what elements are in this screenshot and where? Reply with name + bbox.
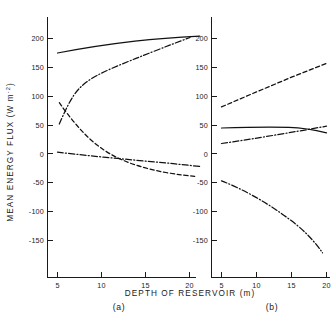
y-tick-label: 200 (31, 34, 44, 43)
y-tick-label: -50 (197, 178, 208, 187)
y-tick-label: 50 (36, 121, 44, 130)
panel-a-axis-lines (48, 17, 197, 278)
svg-text:MEAN ENERGY FLUX (W m-2): MEAN ENERGY FLUX (W m-2) (5, 82, 15, 222)
panel-b-x-ticks (222, 272, 327, 278)
x-axis-title: DEPTH OF RESERVOIR (m) (125, 289, 256, 298)
panel-b-axis-lines (212, 17, 331, 278)
y-tick-label: -50 (33, 178, 44, 187)
y-tick-label: -100 (29, 207, 44, 216)
y-tick-label: -100 (193, 207, 208, 216)
panel-a: 200 150 100 50 0 -50 -100 -150 5 10 15 2… (29, 17, 200, 312)
curve-a-solid-upper (58, 36, 200, 53)
panel-a-y-ticks (48, 39, 54, 241)
curve-b-dashdot-rising (222, 126, 327, 143)
y-tick-label: 50 (200, 121, 208, 130)
y-tick-label: 100 (31, 92, 44, 101)
panel-label-a: (a) (113, 302, 125, 312)
y-tick-label: 150 (31, 63, 44, 72)
y-tick-label: -150 (29, 236, 44, 245)
panel-b-y-tick-labels: 200 150 100 50 0 -50 -100 -150 (193, 34, 208, 245)
figure-container: 200 150 100 50 0 -50 -100 -150 5 10 15 2… (0, 0, 335, 324)
curve-a-dashdot-rising (59, 38, 190, 125)
x-tick-label: 10 (97, 281, 105, 290)
chart-svg: 200 150 100 50 0 -50 -100 -150 5 10 15 2… (0, 0, 335, 324)
y-tick-label: -150 (193, 236, 208, 245)
curve-b-dashed-rising (222, 63, 327, 107)
curve-b-dashdot-falling (222, 181, 323, 253)
panel-label-b: (b) (266, 302, 278, 312)
curve-a-dashed-falling (59, 103, 196, 177)
y-axis-units-open: (W m (6, 93, 15, 117)
panel-a-x-ticks (58, 272, 190, 278)
y-axis-units-close: ) (6, 82, 15, 86)
curve-b-solid-flat (222, 127, 327, 133)
y-axis-title-text: MEAN ENERGY FLUX (6, 121, 15, 222)
y-tick-label: 0 (40, 150, 44, 159)
panel-a-axes: 200 150 100 50 0 -50 -100 -150 5 10 15 2… (29, 17, 196, 290)
x-tick-label: 15 (287, 281, 295, 290)
y-tick-label: 200 (195, 34, 208, 43)
y-tick-label: 100 (195, 92, 208, 101)
y-axis-units-exponent: -2 (5, 86, 11, 93)
x-tick-label: 20 (322, 281, 330, 290)
y-tick-label: 0 (204, 150, 208, 159)
panel-b-y-ticks (212, 39, 218, 241)
panel-b: 200 150 100 50 0 -50 -100 -150 5 10 15 2… (193, 17, 331, 312)
y-axis-title: MEAN ENERGY FLUX (W m-2) (5, 82, 15, 222)
panel-a-curves (58, 36, 200, 176)
panel-a-y-tick-labels: 200 150 100 50 0 -50 -100 -150 (29, 34, 44, 245)
y-tick-label: 150 (195, 63, 208, 72)
curve-a-dashdot-lower (58, 152, 200, 166)
panel-b-curves (222, 63, 327, 252)
x-tick-label: 5 (55, 281, 59, 290)
panel-b-axes: 200 150 100 50 0 -50 -100 -150 5 10 15 2… (193, 17, 331, 290)
